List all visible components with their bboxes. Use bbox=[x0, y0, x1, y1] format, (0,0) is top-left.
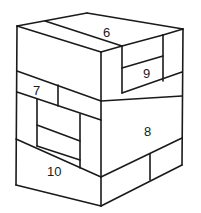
label-block-10: 10 bbox=[47, 164, 61, 179]
label-block-8: 8 bbox=[144, 124, 151, 139]
right-face bbox=[101, 29, 183, 206]
label-block-6: 6 bbox=[103, 25, 110, 40]
label-block-9: 9 bbox=[143, 66, 150, 81]
block-stack-diagram: 6 9 7 8 10 bbox=[0, 0, 201, 213]
label-block-7: 7 bbox=[33, 83, 40, 98]
